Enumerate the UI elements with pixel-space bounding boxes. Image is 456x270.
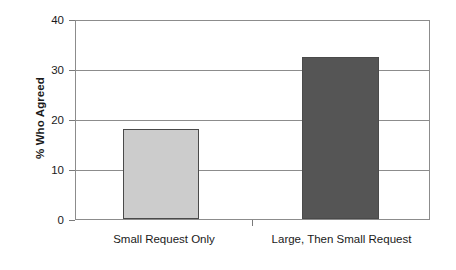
bar-small-request-only [123,129,199,219]
x-axis-tick-labels: Small Request Only Large, Then Small Req… [75,232,430,252]
y-tick-label-0: 0 [40,214,64,226]
y-tick-mark-0 [69,220,75,221]
y-tick-label-10: 10 [40,164,64,176]
bar-large-then-small-request [302,57,379,220]
y-tick-label-20: 20 [40,114,64,126]
bar-chart: % Who Agreed 40 30 20 10 0 Small Request… [0,0,456,270]
x-tick-label-small-request-only: Small Request Only [75,232,253,246]
y-tick-label-40: 40 [40,14,64,26]
plot-area [75,20,430,220]
x-tick-label-large-then-small-request: Large, Then Small Request [253,232,430,246]
x-tick-mark-category-divider [252,220,253,226]
y-axis-tick-labels: 40 30 20 10 0 [40,0,64,270]
y-tick-label-30: 30 [40,64,64,76]
